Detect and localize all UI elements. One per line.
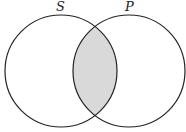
venn-diagram: S P xyxy=(0,0,186,132)
set-s-label: S xyxy=(56,0,65,14)
set-p-label: P xyxy=(124,0,134,14)
